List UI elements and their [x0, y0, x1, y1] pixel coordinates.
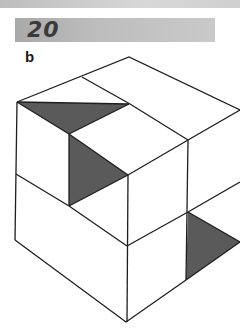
outline-edges [15, 57, 240, 322]
top-left-triangle [17, 102, 129, 134]
lower-right-triangle [186, 212, 240, 280]
inner-face-triangle [69, 134, 128, 206]
isometric-cube-figure [0, 0, 240, 333]
